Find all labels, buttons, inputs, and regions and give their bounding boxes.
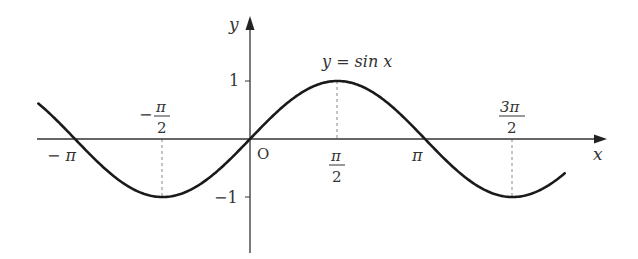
numerator: 3π <box>500 98 521 116</box>
curve-label: y = sin x <box>321 52 392 71</box>
x-tick-label-neg-half-pi: − π 2 <box>139 98 170 137</box>
x-axis-arrow-icon <box>594 135 607 144</box>
x-tick-label-pi: π <box>411 146 423 165</box>
x-tick-label-three-half-pi: 3π 2 <box>499 98 525 137</box>
y-axis-label: y <box>228 14 239 34</box>
numerator: π <box>155 98 167 116</box>
y-axis-arrow-icon <box>246 16 255 30</box>
x-axis-label: x <box>593 144 603 164</box>
numerator: π <box>330 147 342 165</box>
denominator: 2 <box>332 168 342 186</box>
y-tick-label-neg1: −1 <box>214 188 238 207</box>
x-tick-label-neg-pi: − π <box>47 146 76 165</box>
minus-sign: − <box>139 105 152 124</box>
origin-label: O <box>257 145 269 163</box>
y-tick-label-1: 1 <box>229 71 239 90</box>
sine-graph: y x O 1 −1 y = sin x − π − π 2 π 2 π 3π … <box>0 0 638 259</box>
denominator: 2 <box>157 119 167 137</box>
x-tick-label-half-pi: π 2 <box>329 147 345 186</box>
denominator: 2 <box>507 119 517 137</box>
